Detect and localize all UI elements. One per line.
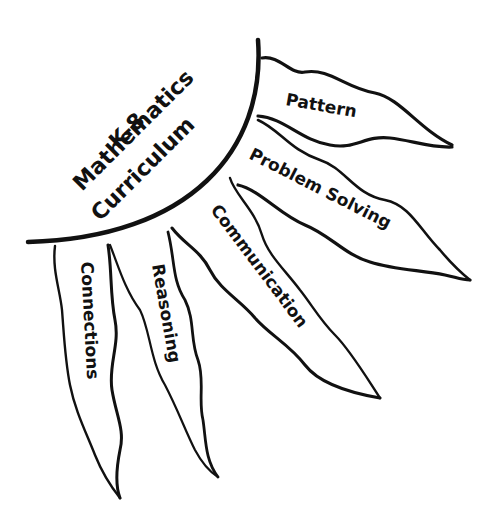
banner-pattern: Pattern bbox=[258, 58, 452, 147]
banner-label: Connections bbox=[77, 261, 103, 380]
banner-label: Reasoning bbox=[148, 262, 185, 364]
banner-label: Problem Solving bbox=[246, 144, 395, 233]
banner-reasoning: Reasoning bbox=[110, 232, 218, 477]
banner-label: Pattern bbox=[284, 89, 358, 121]
curriculum-diagram: K-8 Mathematics Curriculum Pattern Probl… bbox=[0, 0, 502, 521]
banner-connections: Connections bbox=[54, 245, 121, 498]
